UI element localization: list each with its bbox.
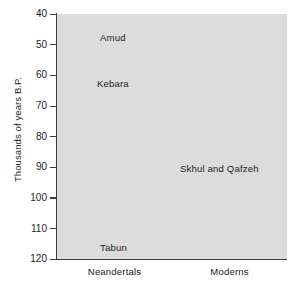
data-label-tabun: Tabun [100,242,127,253]
data-label-skhul-and-qafzeh: Skhul and Qafzeh [180,163,259,174]
y-tick-label-90: 90 [0,161,56,173]
x-category-label-neandertals: Neandertals [57,266,172,277]
plot-area: Amud Kebara Skhul and Qafzeh Tabun [57,14,287,259]
y-axis-line [56,13,57,260]
y-tick-label-120: 120 [0,253,56,265]
y-tick-label-80: 80 [0,130,56,142]
y-tick-label-40: 40 [0,8,56,20]
data-label-kebara: Kebara [97,78,129,89]
y-tick-label-100: 100 [0,191,56,203]
x-category-label-moderns: Moderns [172,266,287,277]
data-label-amud: Amud [100,32,126,43]
y-tick-label-70: 70 [0,100,56,112]
chart-figure: Thousands of years B.P. Amud Kebara Skhu… [0,0,295,293]
y-tick-label-50: 50 [0,38,56,50]
y-tick-label-60: 60 [0,69,56,81]
x-axis-line [56,259,287,260]
y-tick-label-110: 110 [0,222,56,234]
